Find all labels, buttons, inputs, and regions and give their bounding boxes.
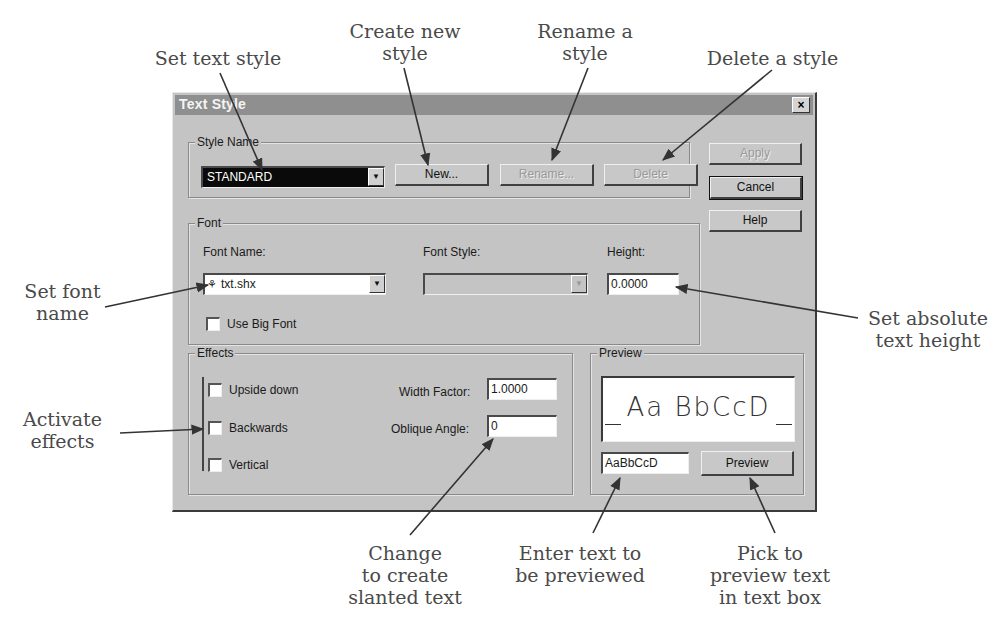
preview-group-label: Preview bbox=[597, 346, 644, 360]
checkbox-box[interactable] bbox=[206, 317, 220, 331]
callout-set-font-name: Set font name bbox=[15, 280, 110, 324]
preview-text-input[interactable]: AaBbCcD bbox=[601, 452, 689, 474]
callout-activate-effects: Activate effects bbox=[15, 408, 110, 452]
oblique-angle-input[interactable]: 0 bbox=[487, 415, 557, 437]
chevron-down-icon[interactable]: ▼ bbox=[368, 168, 384, 186]
font-group-label: Font bbox=[195, 216, 223, 230]
vertical-checkbox[interactable]: Vertical bbox=[208, 458, 268, 472]
style-name-value: STANDARD bbox=[205, 170, 274, 184]
vertical-label: Vertical bbox=[229, 458, 268, 472]
upside-down-checkbox[interactable]: Upside down bbox=[208, 383, 298, 397]
chevron-down-icon[interactable]: ▼ bbox=[369, 275, 385, 293]
title-bar[interactable]: Text Style × bbox=[175, 95, 813, 115]
preview-baseline-left bbox=[605, 424, 621, 425]
callout-rename-style: Rename a style bbox=[530, 20, 640, 64]
width-factor-label: Width Factor: bbox=[399, 385, 470, 399]
text-style-dialog: Text Style × Style Name STANDARD ▼ New..… bbox=[172, 92, 817, 512]
height-label: Height: bbox=[607, 245, 645, 259]
backwards-label: Backwards bbox=[229, 421, 288, 435]
checkbox-box[interactable] bbox=[208, 421, 222, 435]
new-style-button[interactable]: New... bbox=[395, 164, 489, 186]
help-button[interactable]: Help bbox=[709, 210, 802, 232]
font-name-label: Font Name: bbox=[203, 245, 266, 259]
callout-delete-style: Delete a style bbox=[700, 47, 845, 69]
backwards-checkbox[interactable]: Backwards bbox=[208, 421, 288, 435]
font-name-dropdown[interactable]: ⚘txt.shx ▼ bbox=[203, 273, 386, 295]
width-factor-input[interactable]: 1.0000 bbox=[487, 378, 557, 400]
font-style-label: Font Style: bbox=[423, 245, 480, 259]
font-name-value: txt.shx bbox=[221, 277, 256, 291]
effects-group-label: Effects bbox=[195, 346, 235, 360]
use-big-font-label: Use Big Font bbox=[227, 317, 296, 331]
preview-button[interactable]: Preview bbox=[701, 451, 794, 476]
callout-enter-preview-text: Enter text to be previewed bbox=[515, 542, 645, 586]
callout-create-new-style: Create new style bbox=[340, 20, 470, 64]
preview-display: Aa BbCcD bbox=[601, 376, 795, 442]
effects-bracket bbox=[202, 377, 204, 471]
preview-baseline-right bbox=[776, 424, 792, 425]
dialog-title: Text Style bbox=[179, 96, 246, 112]
font-style-dropdown[interactable]: ▼ bbox=[423, 273, 588, 295]
oblique-angle-label: Oblique Angle: bbox=[391, 422, 469, 436]
checkbox-box[interactable] bbox=[208, 383, 222, 397]
checkbox-box[interactable] bbox=[208, 458, 222, 472]
rename-style-button[interactable]: Rename... bbox=[500, 164, 594, 186]
delete-style-button[interactable]: Delete bbox=[604, 164, 698, 186]
callout-pick-to-preview: Pick to preview text in text box bbox=[705, 542, 835, 608]
close-button[interactable]: × bbox=[792, 97, 810, 113]
callout-set-absolute-height: Set absolute text height bbox=[858, 307, 998, 351]
preview-sample-text: Aa BbCcD bbox=[603, 392, 794, 422]
upside-down-label: Upside down bbox=[229, 383, 298, 397]
shx-font-icon: ⚘ bbox=[207, 278, 217, 290]
callout-change-slanted: Change to create slanted text bbox=[340, 542, 470, 608]
height-input[interactable]: 0.0000 bbox=[607, 273, 679, 295]
style-name-group-label: Style Name bbox=[195, 135, 261, 149]
callout-set-text-style: Set text style bbox=[148, 47, 288, 69]
chevron-down-icon[interactable]: ▼ bbox=[571, 275, 587, 293]
close-icon: × bbox=[797, 98, 804, 112]
apply-button[interactable]: Apply bbox=[709, 143, 802, 165]
cancel-button[interactable]: Cancel bbox=[710, 177, 802, 199]
use-big-font-checkbox[interactable]: Use Big Font bbox=[206, 317, 296, 331]
style-name-dropdown[interactable]: STANDARD ▼ bbox=[201, 166, 385, 188]
